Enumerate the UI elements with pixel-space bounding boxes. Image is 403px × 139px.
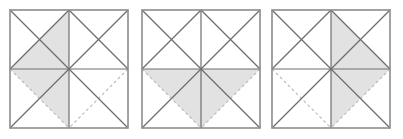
square-3	[272, 10, 390, 128]
square-2	[142, 10, 260, 128]
geometric-figure: Three squares subdivided into eight tria…	[0, 0, 403, 139]
figure-container: Three squares subdivided into eight tria…	[0, 0, 403, 139]
square-1	[10, 10, 128, 128]
